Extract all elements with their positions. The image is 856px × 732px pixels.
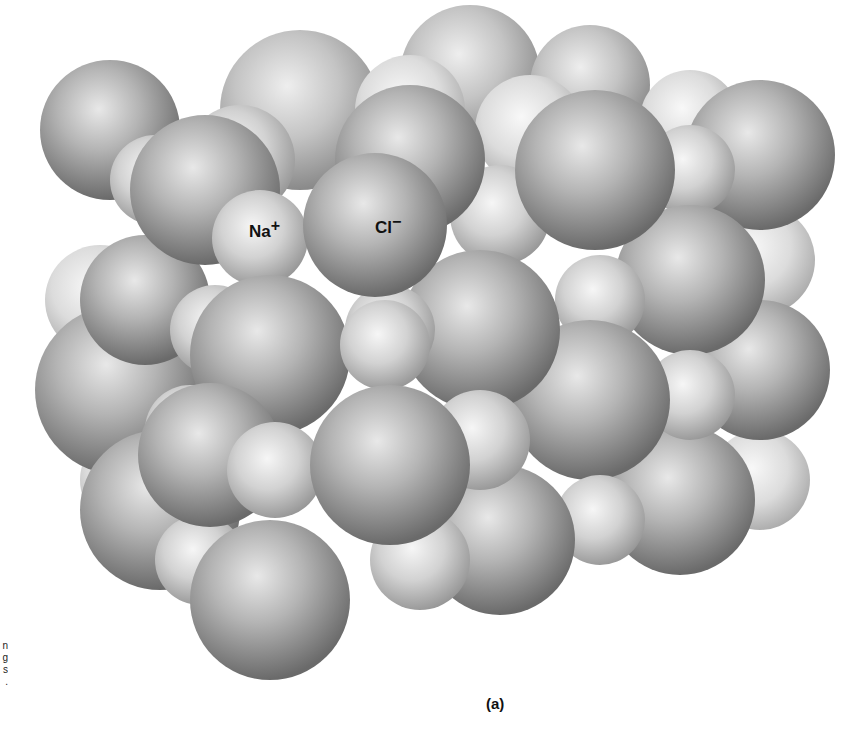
- nacl-lattice-diagram: [0, 0, 856, 732]
- left-margin-text-fragment: n g s .: [0, 640, 8, 688]
- sodium-ion-charge: +: [271, 217, 280, 234]
- chloride-ion-label: Cl−: [375, 213, 401, 238]
- sodium-ion-label: Na+: [249, 217, 280, 242]
- fragment-4: .: [0, 676, 8, 688]
- chloride-ion-symbol: Cl: [375, 218, 392, 237]
- fragment-2: g: [0, 652, 8, 664]
- fragment-1: n: [0, 640, 8, 652]
- fragment-3: s: [0, 664, 8, 676]
- sodium-ion-symbol: Na: [249, 222, 271, 241]
- panel-label: (a): [486, 695, 504, 712]
- chloride-ion-charge: −: [392, 213, 401, 230]
